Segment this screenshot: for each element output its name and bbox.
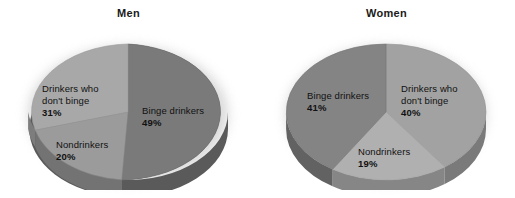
- pie-stage-women: Binge drinkers 41% Drinkers who don't bi…: [270, 30, 502, 190]
- pie-label-men-binge-pct: 49%: [142, 117, 204, 129]
- pie-label-men-dontbinge-pct: 31%: [42, 107, 99, 119]
- pie-label-men-dontbinge-text: Drinkers who don't binge: [42, 83, 99, 106]
- pie-chart-women: Women B: [258, 0, 515, 198]
- pie-chart-men: Men: [0, 0, 257, 198]
- pie-label-men-nondrinkers-pct: 20%: [56, 151, 108, 163]
- pie-label-women-binge-text: Binge drinkers: [307, 90, 369, 101]
- pie-label-men-dontbinge: Drinkers who don't binge 31%: [42, 71, 99, 131]
- pie-label-men-nondrinkers-text: Nondrinkers: [56, 139, 108, 150]
- pie-label-women-binge-pct: 41%: [307, 102, 369, 114]
- pie-label-women-nondrinkers-text: Nondrinkers: [358, 146, 410, 157]
- pie-label-men-binge-text: Binge drinkers: [142, 105, 204, 116]
- pie-label-women-dontbinge: Drinkers who don't binge 40%: [401, 71, 458, 131]
- pie-label-women-dontbinge-text: Drinkers who don't binge: [401, 83, 458, 106]
- chart-title-women: Women: [258, 7, 515, 19]
- pie-stage-men: Drinkers who don't binge 31% Nondrinkers…: [12, 30, 244, 190]
- pie-label-men-nondrinkers: Nondrinkers 20%: [56, 127, 108, 175]
- pie-label-women-nondrinkers: Nondrinkers 19%: [358, 134, 410, 182]
- chart-title-men: Men: [0, 7, 257, 19]
- pie-label-men-binge: Binge drinkers 49%: [142, 93, 204, 141]
- pie-label-women-dontbinge-pct: 40%: [401, 107, 458, 119]
- pie-label-women-nondrinkers-pct: 19%: [358, 158, 410, 170]
- pie-label-women-binge: Binge drinkers 41%: [307, 78, 369, 126]
